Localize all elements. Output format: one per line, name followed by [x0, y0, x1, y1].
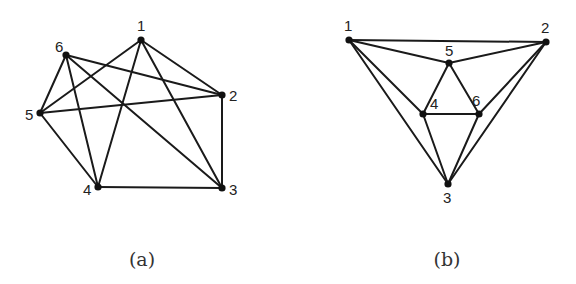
node-label-6: 6: [55, 38, 63, 55]
graph-a-edges: [40, 40, 222, 188]
edge-1-3: [141, 40, 222, 188]
edge-2-6: [479, 42, 546, 114]
node-6: [475, 110, 482, 117]
node-4: [94, 183, 101, 190]
node-label-4: 4: [83, 181, 91, 198]
edge-4-3: [423, 114, 448, 184]
node-label-3: 3: [443, 189, 451, 206]
graph-figure-canvas: 123456 (a) 123456 (b): [0, 0, 576, 284]
node-2: [218, 91, 225, 98]
node-label-5: 5: [445, 42, 453, 59]
node-label-1: 1: [137, 17, 145, 34]
edge-2-5: [449, 42, 546, 63]
node-1: [345, 36, 352, 43]
node-label-5: 5: [25, 106, 33, 123]
edge-1-4: [349, 40, 423, 114]
node-label-2: 2: [541, 19, 549, 36]
node-3: [444, 180, 451, 187]
node-4: [419, 110, 426, 117]
node-label-2: 2: [229, 87, 237, 104]
graph-b: 123456 (b): [344, 17, 550, 270]
node-label-3: 3: [229, 181, 237, 198]
node-5: [36, 109, 43, 116]
node-5: [445, 59, 452, 66]
graph-a: 123456 (a): [25, 17, 237, 270]
edge-6-3: [448, 114, 479, 184]
edge-1-2: [141, 40, 222, 95]
node-3: [218, 184, 225, 191]
node-label-4: 4: [430, 95, 438, 112]
node-6: [62, 51, 69, 58]
graph-a-nodes: 123456: [25, 17, 237, 198]
graph-a-caption: (a): [129, 248, 155, 270]
edge-1-5: [349, 40, 449, 63]
node-label-6: 6: [472, 92, 480, 109]
edge-1-3: [349, 40, 448, 184]
node-label-1: 1: [344, 17, 352, 34]
node-2: [542, 38, 549, 45]
graph-b-caption: (b): [434, 248, 461, 270]
node-1: [137, 36, 144, 43]
edge-4-3: [98, 187, 222, 188]
